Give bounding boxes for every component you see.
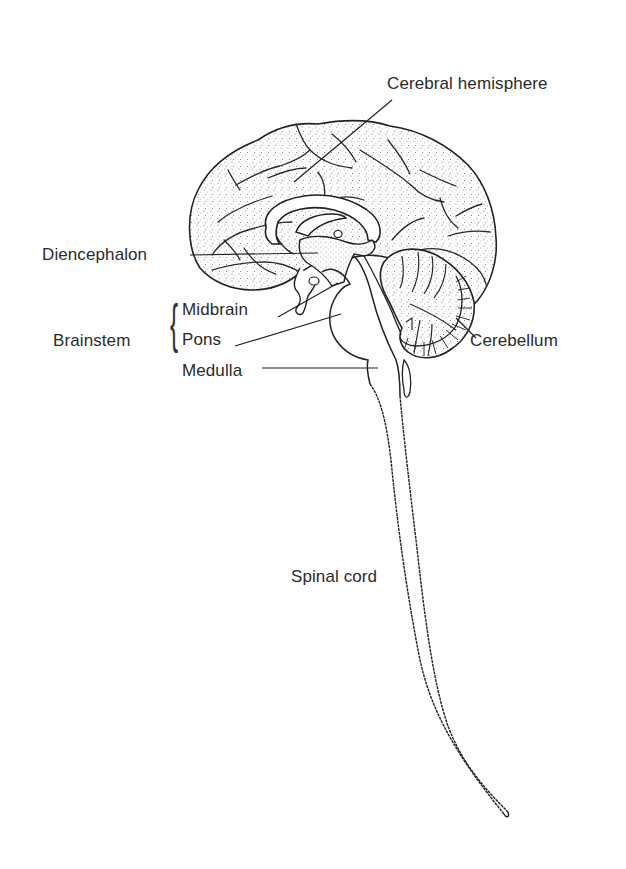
label-brainstem: Brainstem — [53, 331, 130, 351]
label-pons: Pons — [182, 330, 221, 350]
label-diencephalon: Diencephalon — [42, 245, 147, 265]
diencephalon — [294, 236, 374, 314]
label-spinal-cord: Spinal cord — [291, 567, 377, 587]
spinal-cord — [370, 384, 509, 817]
label-cerebellum: Cerebellum — [470, 331, 558, 351]
leader-pons — [235, 314, 341, 346]
brain-diagram — [0, 0, 626, 869]
label-cerebral-hemisphere: Cerebral hemisphere — [387, 74, 548, 94]
label-medulla: Medulla — [182, 361, 242, 381]
label-midbrain: Midbrain — [182, 300, 248, 320]
brainstem-brace: { — [170, 296, 178, 350]
